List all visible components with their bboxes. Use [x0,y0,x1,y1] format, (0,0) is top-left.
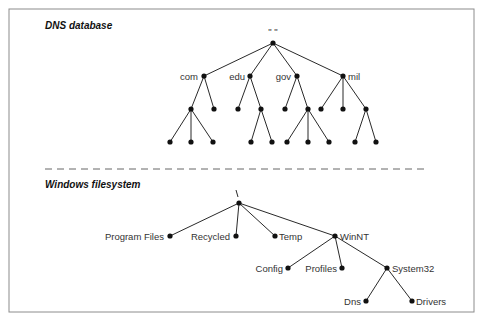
fs-label-dns: Dns [344,296,361,307]
fs-label-winnt: WinNT [340,231,369,242]
dns-label-gov: gov [276,71,292,82]
fs-label-profiles: Profiles [305,263,337,274]
dns-root-label: " " [268,26,277,37]
fs-label-temp: Temp [279,231,302,242]
fs-root-backslash-glyph [236,190,238,197]
dns-tree-nodes [167,40,378,144]
dns-label-edu: edu [229,71,245,82]
fs-section-title: Windows filesystem [45,179,141,190]
fs-label-recycled: Recycled [191,231,230,242]
fs-label-drivers: Drivers [416,296,446,307]
dns-section-title: DNS database [45,20,113,31]
fs-label-system32: System32 [392,263,434,274]
fs-tree-nodes [167,200,414,303]
dns-label-mil: mil [348,71,360,82]
dns-label-com: com [180,71,198,82]
fs-label-program-files: Program Files [105,231,164,242]
dns-tree-edges [170,43,376,142]
fs-tree-edges [170,203,412,301]
diagram-canvas: DNS database [0,0,484,323]
fs-label-config: Config [256,263,283,274]
